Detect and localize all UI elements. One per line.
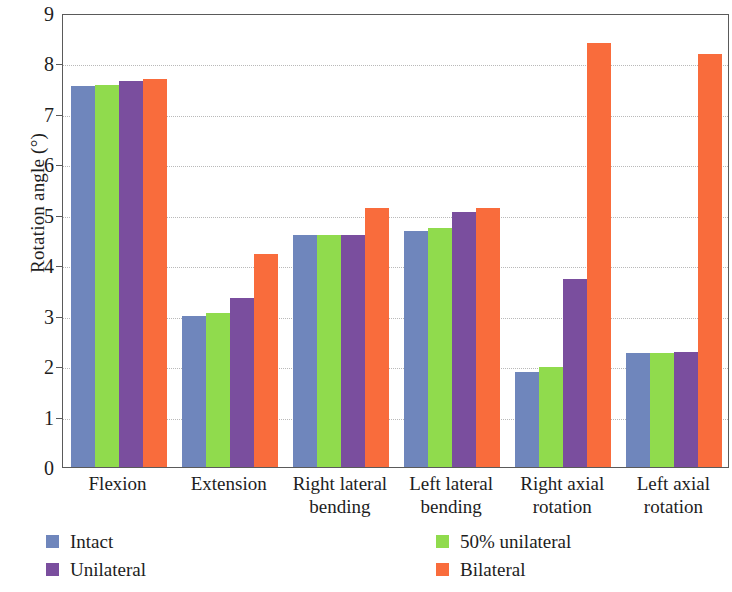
chart-legend: Intact50% unilateralUnilateralBilateral: [46, 532, 706, 588]
bar: [341, 235, 365, 467]
bar-group-bars: [63, 15, 174, 467]
bar-group: [174, 15, 285, 467]
x-axis-tick-labels: FlexionExtensionRight lateralbendingLeft…: [62, 472, 729, 528]
y-axis-tick-label: 1: [0, 408, 54, 428]
legend-swatch-icon: [436, 563, 449, 576]
bar: [119, 81, 143, 467]
bar: [206, 313, 230, 467]
bar-group-bars: [619, 15, 730, 467]
legend-label: 50% unilateral: [460, 532, 571, 551]
x-axis-tick-label-line: bending: [284, 495, 395, 518]
y-axis-tick-label: 9: [0, 4, 54, 24]
legend-swatch-icon: [436, 535, 449, 548]
plot-area: [62, 14, 729, 468]
x-axis-tick-label: Flexion: [62, 472, 173, 495]
bar-group: [285, 15, 396, 467]
bar-group-bars: [285, 15, 396, 467]
bar: [698, 54, 722, 467]
bar-group-bars: [174, 15, 285, 467]
bar: [587, 43, 611, 467]
y-axis-tick-label: 8: [0, 54, 54, 74]
x-axis-tick-label-line: rotation: [507, 495, 618, 518]
bar: [254, 254, 278, 467]
x-axis-tick-label-line: Flexion: [62, 472, 173, 495]
bar: [404, 231, 428, 467]
y-axis-tick-label: 2: [0, 357, 54, 377]
x-axis-tick-label-line: Extension: [173, 472, 284, 495]
bar-group: [508, 15, 619, 467]
y-axis-tick-label: 4: [0, 256, 54, 276]
bar-group: [63, 15, 174, 467]
bar-group: [619, 15, 730, 467]
legend-label: Unilateral: [70, 560, 146, 579]
legend-swatch-icon: [46, 563, 59, 576]
y-axis-tick-label: 7: [0, 105, 54, 125]
x-axis-tick-label: Right axialrotation: [507, 472, 618, 518]
legend-item[interactable]: Unilateral: [46, 560, 146, 579]
bar: [293, 235, 317, 467]
x-axis-tick-label-line: Left axial: [618, 472, 729, 495]
bar: [365, 208, 389, 467]
legend-swatch-icon: [46, 535, 59, 548]
legend-item[interactable]: 50% unilateral: [436, 532, 571, 551]
bar: [182, 316, 206, 467]
bar: [230, 298, 254, 467]
legend-label: Bilateral: [460, 560, 525, 579]
bar: [563, 279, 587, 467]
legend-item[interactable]: Intact: [46, 532, 113, 551]
bar-group-bars: [397, 15, 508, 467]
x-axis-tick-label-line: bending: [396, 495, 507, 518]
x-axis-tick-label: Left axialrotation: [618, 472, 729, 518]
x-axis-tick-label-line: Right lateral: [284, 472, 395, 495]
bar: [515, 372, 539, 467]
x-axis-tick-label: Left lateralbending: [396, 472, 507, 518]
bar: [317, 235, 341, 467]
x-axis-tick-label: Extension: [173, 472, 284, 495]
legend-item[interactable]: Bilateral: [436, 560, 525, 579]
bar-group: [397, 15, 508, 467]
x-axis-tick-label-line: Right axial: [507, 472, 618, 495]
bar: [71, 86, 95, 467]
bar: [476, 208, 500, 467]
bar: [95, 85, 119, 467]
chart-figure: Rotation angle (°) 0123456789 FlexionExt…: [0, 0, 732, 592]
bar: [428, 228, 452, 467]
y-axis-tick-label: 3: [0, 307, 54, 327]
y-axis-tick-label: 5: [0, 206, 54, 226]
bar: [674, 352, 698, 467]
y-axis-tick-label: 0: [0, 458, 54, 478]
x-axis-tick-label: Right lateralbending: [284, 472, 395, 518]
x-axis-tick-label-line: Left lateral: [396, 472, 507, 495]
legend-label: Intact: [70, 532, 113, 551]
y-axis-tick-label: 6: [0, 155, 54, 175]
x-axis-tick-label-line: rotation: [618, 495, 729, 518]
bar: [143, 79, 167, 467]
bar: [452, 212, 476, 467]
bar-group-bars: [508, 15, 619, 467]
bar: [650, 353, 674, 468]
bar: [539, 367, 563, 467]
plot-inner: [63, 15, 728, 467]
bar: [626, 353, 650, 468]
